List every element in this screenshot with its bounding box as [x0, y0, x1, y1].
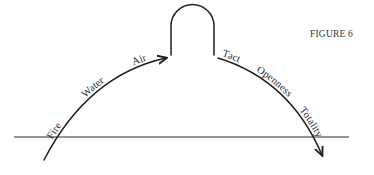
figure-6-diagram: Fire Water Air Tact Openness Totality FI…	[0, 0, 374, 175]
label-fire: Fire	[44, 120, 63, 141]
arch-gate	[171, 4, 214, 55]
label-openness: Openness	[255, 64, 295, 99]
label-tact: Tact	[221, 48, 242, 65]
ascending-arc-arrow	[44, 58, 166, 160]
figure-caption: FIGURE 6	[310, 29, 353, 39]
label-air: Air	[130, 52, 148, 68]
